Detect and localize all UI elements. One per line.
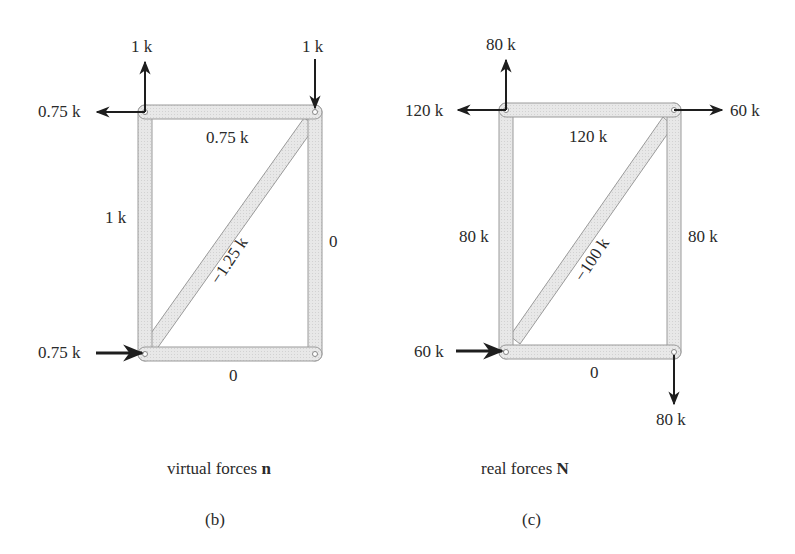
force-b-bottom: 0	[229, 367, 238, 384]
pin-icon	[143, 352, 148, 357]
force-c-left: 80 k	[459, 228, 489, 245]
caption-c: real forces N	[481, 460, 569, 477]
force-c-right: 80 k	[688, 228, 718, 245]
load-b-top-right-down: 1 k	[302, 38, 323, 55]
force-c-bottom: 0	[590, 364, 599, 381]
pin-icon	[672, 350, 677, 355]
truss-c	[456, 60, 722, 404]
member-c-left	[499, 103, 513, 359]
force-b-right: 0	[329, 233, 338, 250]
panel-label-c: (c)	[522, 511, 541, 528]
member-c-top	[499, 103, 681, 117]
caption-b: virtual forces n	[167, 460, 271, 477]
load-c-bottom-left-right: 60 k	[414, 343, 444, 360]
load-b-top-left-up: 1 k	[131, 38, 152, 55]
member-c-diagonal	[510, 117, 673, 344]
member-b-diagonal	[144, 118, 316, 350]
pin-icon	[313, 352, 318, 357]
member-b-top	[138, 105, 322, 119]
truss-diagrams	[0, 0, 795, 554]
force-c-top: 120 k	[569, 128, 607, 145]
caption-b-text: virtual forces	[167, 459, 257, 478]
member-b-bottom	[138, 347, 322, 361]
pin-icon	[313, 110, 318, 115]
panel-label-b: (b)	[205, 511, 225, 528]
load-c-bottom-right-down: 80 k	[656, 411, 686, 428]
force-b-top: 0.75 k	[206, 129, 249, 146]
caption-b-symbol: n	[261, 459, 270, 478]
member-b-left	[138, 105, 152, 361]
load-c-top-left-up: 80 k	[486, 36, 516, 53]
caption-c-text: real forces	[481, 459, 552, 478]
member-b-right	[308, 105, 322, 361]
load-c-top-right-right: 60 k	[730, 102, 760, 119]
force-b-left: 1 k	[105, 209, 126, 226]
load-b-bottom-left-right: 0.75 k	[38, 344, 81, 361]
pin-icon	[504, 350, 509, 355]
caption-c-symbol: N	[557, 459, 569, 478]
member-c-bottom	[499, 345, 681, 359]
load-c-top-left-left: 120 k	[405, 102, 443, 119]
member-c-right	[667, 103, 681, 359]
load-b-top-left-left: 0.75 k	[38, 103, 81, 120]
truss-b	[96, 59, 322, 361]
